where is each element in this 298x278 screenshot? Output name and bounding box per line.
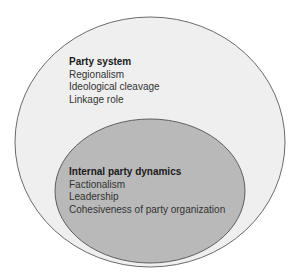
diagram-canvas: [0, 0, 298, 278]
internal-party-dynamics-item: Leadership: [69, 191, 225, 204]
internal-party-dynamics-item: Cohesiveness of party organization: [69, 204, 225, 217]
internal-party-dynamics-title: Internal party dynamics: [69, 166, 225, 179]
party-system-item: Linkage role: [69, 94, 160, 107]
party-system-item: Ideological cleavage: [69, 81, 160, 94]
party-system-item: Regionalism: [69, 69, 160, 82]
internal-party-dynamics-item: Factionalism: [69, 179, 225, 192]
party-system-label-group: Party system Regionalism Ideological cle…: [69, 56, 160, 106]
internal-party-dynamics-label-group: Internal party dynamics Factionalism Lea…: [69, 166, 225, 216]
party-system-title: Party system: [69, 56, 160, 69]
